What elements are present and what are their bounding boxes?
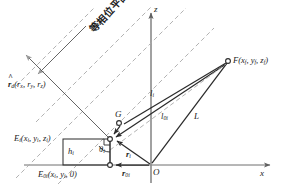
- marker-Ei: [108, 137, 113, 142]
- equiphase-line-1: [16, 7, 95, 86]
- diagram-canvas: z x O 等相位平面 rd(rx, ry, rz) F(xf, yf, zf)…: [0, 0, 283, 193]
- height-sub: i: [72, 150, 74, 156]
- unit-vector-z: , r: [33, 79, 41, 89]
- height-label: hi: [68, 147, 74, 157]
- focal-point-open: (x: [238, 55, 245, 65]
- segment-F-to-Ei: [116, 64, 226, 137]
- element-point-label: Ei(xi, yi, zi): [14, 134, 51, 144]
- axis-group: [24, 13, 270, 183]
- marker-G: [117, 121, 122, 126]
- unit-vector-close: ): [43, 79, 46, 89]
- marker-E0i: [108, 163, 113, 168]
- element-projection-mid1: , y: [56, 169, 64, 179]
- unit-vector-label: rd(rx, ry, rz): [8, 80, 46, 90]
- path-L-symbol: L: [194, 111, 199, 121]
- path-l0i-label: l0i: [161, 112, 168, 122]
- focal-point-label: F(xf, yf, zf): [233, 56, 268, 66]
- element-point-close: ): [48, 133, 51, 143]
- axis-label-z: z: [154, 5, 158, 14]
- radius-i-label: ri: [126, 150, 131, 160]
- segment-l-i: [124, 63, 226, 124]
- element-projection-label: E0i(xi, yi, 0): [38, 170, 77, 180]
- propagation-arrow-upper: [38, 26, 86, 74]
- element-projection-close: ): [74, 169, 77, 179]
- angle-label: θi: [99, 145, 105, 155]
- element-point-mid1: , y: [29, 133, 37, 143]
- radius-0i-sub: 0i: [125, 172, 130, 178]
- radius-i-sub: i: [129, 153, 131, 159]
- segment-l-0i: [110, 64, 226, 150]
- segment-G-to-Ei: [114, 126, 120, 134]
- path-li-sub: i: [152, 92, 154, 98]
- equiphase-plane-lines: [16, 7, 214, 184]
- propagation-arrow-lower: [26, 55, 108, 137]
- focal-point-mid2: , z: [256, 55, 264, 65]
- marker-F: [226, 59, 231, 64]
- element-projection-mid2: , 0: [66, 169, 75, 179]
- ray-group: [114, 63, 227, 165]
- radius-0i-label: r0i: [122, 169, 130, 179]
- segment-r-i: [117, 141, 150, 164]
- diagram-vector-layer: [0, 0, 283, 193]
- path-L-label: L: [194, 112, 199, 121]
- focal-point-close: ): [265, 55, 268, 65]
- axis-label-x: x: [260, 169, 264, 178]
- point-g-label: G: [115, 110, 122, 119]
- path-l0i-sub: 0i: [163, 115, 168, 121]
- path-li-label: li: [150, 89, 154, 99]
- equiphase-line-4: [58, 28, 214, 184]
- angle-sub: i: [103, 148, 105, 154]
- segment-l-0i-group: [110, 64, 226, 150]
- unit-vector-symbol: r: [8, 79, 11, 89]
- axis-label-origin: O: [153, 168, 160, 177]
